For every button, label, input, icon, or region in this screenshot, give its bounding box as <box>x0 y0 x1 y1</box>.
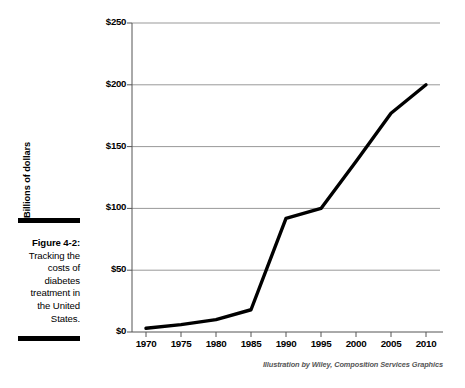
x-axis-tick-label: 1980 <box>196 338 236 349</box>
x-axis-tick-label: 2005 <box>371 338 411 349</box>
x-axis-tick-label: 1975 <box>161 338 201 349</box>
x-axis-tick-label: 2010 <box>406 338 446 349</box>
x-axis-tick-label: 1990 <box>266 338 306 349</box>
line-chart: Billions of dollars $250$200$150$100$50$… <box>0 0 465 388</box>
x-axis-tick-label: 2000 <box>336 338 376 349</box>
x-axis-tick-label: 1995 <box>301 338 341 349</box>
x-axis-tick-label: 1985 <box>231 338 271 349</box>
x-axis-tick-labels: 197019751980198519901995200020052010 <box>0 0 465 388</box>
x-axis-tick-label: 1970 <box>126 338 166 349</box>
illustration-attribution: Illustration by Wiley, Composition Servi… <box>0 360 443 369</box>
